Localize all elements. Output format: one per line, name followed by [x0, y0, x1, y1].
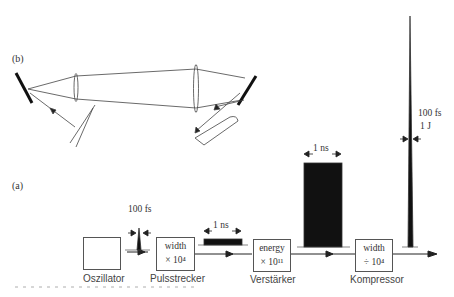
stretcher-optics — [16, 65, 256, 148]
stretcher-label: Pulsstrecker — [150, 273, 205, 284]
amplified-pulse-width: 1 ns — [313, 143, 329, 153]
compressor-line1: width — [356, 243, 392, 253]
compressor-label: Kompressor — [350, 274, 404, 285]
amplified-pulse — [304, 163, 342, 247]
oscillator-box — [83, 237, 121, 270]
lens-left — [74, 74, 78, 102]
dimension-arrows — [128, 136, 421, 236]
compressor-line2: ÷ 10⁴ — [356, 257, 392, 267]
amplifier-label: Verstärker — [250, 274, 296, 285]
amplifier-line2: × 10¹¹ — [254, 257, 290, 267]
short-pulse — [137, 228, 141, 250]
pulses — [125, 16, 418, 250]
compressed-pulse-width: 100 fs — [418, 108, 442, 118]
faint-caption-strip — [15, 286, 195, 288]
compressor-box: width ÷ 10⁴ — [355, 239, 393, 272]
amplifier-line1: energy — [254, 243, 290, 253]
arrow-2 — [226, 251, 233, 257]
stretched-pulse — [204, 239, 242, 245]
left-grating — [16, 73, 32, 103]
compressed-pulse — [408, 16, 413, 247]
oscillator-pulse-width: 100 fs — [128, 204, 152, 214]
stretcher-box: width × 10⁴ — [156, 237, 195, 271]
amplifier-box: energy × 10¹¹ — [253, 239, 291, 272]
arrow-3 — [326, 251, 333, 257]
stretcher-line2: × 10⁴ — [157, 255, 194, 265]
oscillator-label: Oszillator — [83, 273, 125, 284]
lens-right — [194, 65, 199, 113]
stretcher-line1: width — [157, 241, 194, 251]
stretched-pulse-width: 1 ns — [213, 220, 229, 230]
compressed-pulse-energy: 1 J — [420, 121, 431, 131]
arrow-4 — [428, 251, 437, 257]
